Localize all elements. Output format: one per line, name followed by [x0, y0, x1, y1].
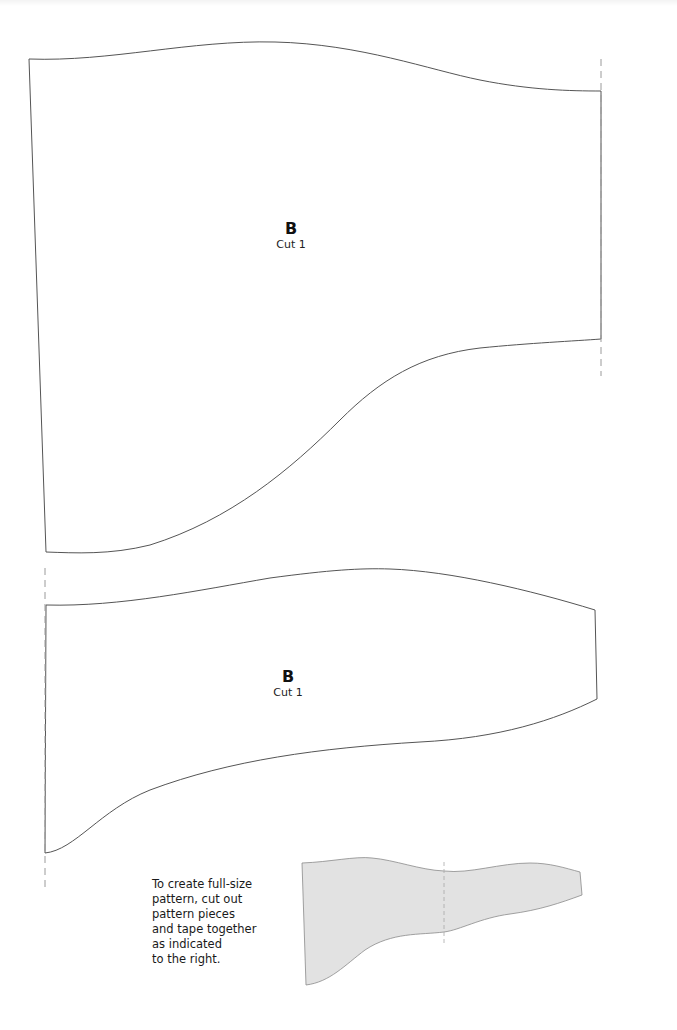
piece-letter: B [251, 221, 331, 237]
piece-lower-label: B Cut 1 [248, 669, 328, 698]
piece-cut-count: Cut 1 [251, 239, 331, 250]
piece-cut-count: Cut 1 [248, 687, 328, 698]
pattern-piece-lower [45, 568, 597, 890]
piece-lower-outline [45, 569, 597, 853]
assembly-instructions: To create full-size pattern, cut out pat… [152, 877, 282, 967]
instruction-line: pattern pieces [152, 907, 282, 922]
instruction-line: and tape together [152, 922, 282, 937]
piece-upper-label: B Cut 1 [251, 221, 331, 250]
thumbnail-shape [302, 858, 582, 985]
instruction-line: as indicated [152, 937, 282, 952]
pattern-piece-upper [29, 42, 601, 553]
assembly-thumbnail [302, 858, 582, 985]
instruction-line: To create full-size [152, 877, 282, 892]
instruction-line: pattern, cut out [152, 892, 282, 907]
piece-upper-outline [29, 42, 601, 553]
pattern-canvas [0, 0, 677, 1030]
instruction-line: to the right. [152, 952, 282, 967]
piece-letter: B [248, 669, 328, 685]
